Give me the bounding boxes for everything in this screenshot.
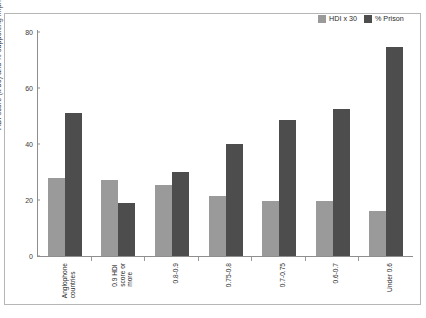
x-label-cell: Anglophonecountries	[38, 261, 92, 307]
bar-prison[interactable]	[226, 144, 243, 256]
x-label-cell: 0.8-0.9	[145, 261, 199, 307]
x-label-cell: 0.9 HDIscore ormore	[92, 261, 146, 307]
legend-item-hdi: HDI x 30	[318, 15, 357, 23]
legend-item-prison: % Prison	[364, 15, 404, 23]
x-axis-label: Under 0.6	[386, 263, 394, 292]
bar-hdi[interactable]	[209, 196, 226, 256]
x-axis-label-line: 0.75-0.8	[225, 263, 233, 287]
bar-hdi[interactable]	[101, 180, 118, 256]
y-tick-label: 80	[25, 29, 37, 36]
x-axis-label: 0.8-0.9	[172, 263, 180, 284]
y-tick-label: 0	[29, 253, 37, 260]
x-axis-label-line: Anglophone	[61, 263, 69, 298]
bar-hdi[interactable]	[48, 178, 65, 256]
chart-figure: HDI x 30 % Prison HDI score (x 30) and %…	[0, 0, 426, 318]
x-axis-label-line: 0.6-0.7	[332, 263, 340, 284]
bar-prison[interactable]	[279, 120, 296, 256]
bar-group	[306, 28, 360, 256]
x-axis-label-line: countries	[68, 263, 76, 298]
bar-prison[interactable]	[172, 172, 189, 256]
bar-group	[252, 28, 306, 256]
bar-group	[359, 28, 413, 256]
x-axis-label-line: 0.8-0.9	[172, 263, 180, 284]
x-axis-label-line: Under 0.6	[386, 263, 394, 292]
x-label-cell: Under 0.6	[359, 261, 413, 307]
y-axis-title: HDI score (x 30) and % supporting impris…	[0, 0, 3, 130]
bar-hdi[interactable]	[155, 185, 172, 256]
x-axis-label-line: more	[126, 263, 134, 287]
bar-prison[interactable]	[118, 203, 135, 256]
x-axis-label: 0.6-0.7	[332, 263, 340, 284]
bar-group	[145, 28, 199, 256]
y-tick-label: 20	[25, 197, 37, 204]
legend-label-prison: % Prison	[375, 15, 404, 22]
bar-prison[interactable]	[65, 113, 82, 256]
x-axis-label: 0.9 HDIscore ormore	[111, 263, 134, 287]
bar-hdi[interactable]	[369, 211, 386, 256]
legend-label-hdi: HDI x 30	[329, 15, 357, 22]
bar-group	[92, 28, 146, 256]
x-axis-label-line: score or	[118, 263, 126, 287]
legend-swatch-hdi	[318, 15, 326, 23]
bar-prison[interactable]	[386, 47, 403, 256]
x-label-cell: 0.7-0.75	[252, 261, 306, 307]
x-axis-label-line: 0.9 HDI	[111, 263, 119, 287]
x-label-cell: 0.75-0.8	[199, 261, 253, 307]
y-tick-label: 40	[25, 141, 37, 148]
legend-swatch-prison	[364, 15, 372, 23]
bar-group	[199, 28, 253, 256]
bar-hdi[interactable]	[316, 201, 333, 256]
chart-legend: HDI x 30 % Prison	[318, 12, 404, 25]
bar-hdi[interactable]	[262, 201, 279, 256]
x-axis-label: 0.7-0.75	[279, 263, 287, 287]
bar-container	[38, 28, 413, 256]
x-label-cell: 0.6-0.7	[306, 261, 360, 307]
x-label-container: Anglophonecountries0.9 HDIscore ormore0.…	[38, 261, 413, 307]
x-axis-label: 0.75-0.8	[225, 263, 233, 287]
x-axis-label: Anglophonecountries	[61, 263, 76, 298]
y-tick-label: 60	[25, 85, 37, 92]
x-axis-label-line: 0.7-0.75	[279, 263, 287, 287]
bar-prison[interactable]	[333, 109, 350, 256]
bar-group	[38, 28, 92, 256]
